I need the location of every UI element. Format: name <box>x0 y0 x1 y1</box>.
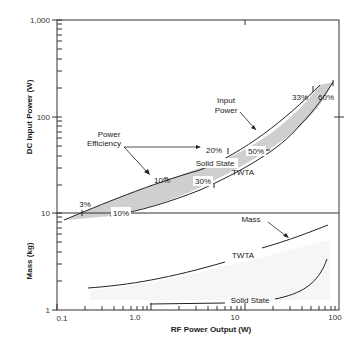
eff-3pct: 3% <box>79 200 91 209</box>
eff-50pct: 50% <box>248 147 264 156</box>
x-ticks <box>57 303 335 310</box>
y-tick-1: 1 <box>46 306 51 315</box>
y-tick-1000: 1,000 <box>30 16 51 25</box>
y-axis-title-top: DC Input Power (W) <box>25 79 34 154</box>
eff-10pct-lower: 10% <box>113 209 129 218</box>
chart: 1,000 100 10 1 0.1 1.0 10 100 RF Power O… <box>0 0 359 347</box>
mass-arrow <box>268 222 286 236</box>
y-axis-title-bottom: Mass (kg) <box>25 242 34 279</box>
x-tick-0-1: 0.1 <box>56 314 68 323</box>
power-efficiency-label-2: Efficiency <box>87 139 121 148</box>
eff-33pct: 33% <box>292 93 308 102</box>
twta-mass-label: TWTA <box>232 251 255 260</box>
mass-shade <box>90 240 330 300</box>
eff-10pct-upper: 10% <box>154 176 170 185</box>
power-efficiency-label-1: Power <box>98 130 121 139</box>
input-power-label-1: Input <box>217 96 236 105</box>
eff-20pct: 20% <box>206 146 222 155</box>
y-tick-100: 100 <box>37 113 51 122</box>
y-tick-10: 10 <box>41 209 50 218</box>
eff-60pct: 60% <box>318 93 334 102</box>
mass-label: Mass <box>241 215 260 224</box>
eff-30pct: 30% <box>195 177 211 186</box>
efficiency-arrow-down <box>124 147 148 173</box>
solid-state-label: Solid State <box>196 159 235 168</box>
input-power-band <box>66 82 333 220</box>
x-axis-title: RF Power Output (W) <box>171 325 252 334</box>
solid-state-mass-label: Solid State <box>231 296 270 305</box>
x-tick-10: 10 <box>231 313 240 322</box>
x-tick-100: 100 <box>328 313 342 322</box>
input-power-label-2: Power <box>215 106 238 115</box>
x-tick-1: 1.0 <box>129 313 141 322</box>
twta-label: TWTA <box>232 168 255 177</box>
solid-state-curve <box>64 85 320 220</box>
